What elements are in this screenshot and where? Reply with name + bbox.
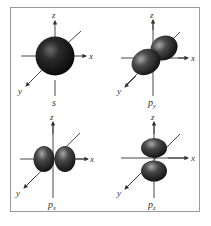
z-axis-label: z xyxy=(49,112,54,122)
panel-pz: z x y pz xyxy=(116,112,195,211)
y-axis-label: y xyxy=(15,188,20,198)
y-axis-label: y xyxy=(116,86,121,96)
z-axis-label: z xyxy=(51,10,56,20)
panel-caption-px: px xyxy=(47,199,56,211)
diagonal-axis-back xyxy=(68,31,81,43)
x-axis-label: x xyxy=(89,154,94,164)
x-axis-label: x xyxy=(88,51,93,61)
px-orbital-lobe-left xyxy=(34,146,55,172)
panel-s: z x y s xyxy=(17,10,93,108)
z-axis-label: z xyxy=(149,10,154,20)
panel-caption-s: s xyxy=(52,97,56,108)
orbital-diagram: z x y s z x y py z x y px xyxy=(0,0,211,226)
x-axis-label: x xyxy=(190,53,195,63)
pz-orbital-lobe-bottom xyxy=(141,161,167,182)
x-axis-label: x xyxy=(190,153,195,163)
y-axis-label: y xyxy=(17,86,22,96)
y-axis-label: y xyxy=(116,188,121,198)
panel-py: z x y py xyxy=(116,10,195,109)
y-axis-arrow xyxy=(24,176,36,188)
y-axis-arrow xyxy=(26,70,42,86)
panel-caption-pz: pz xyxy=(147,199,156,211)
z-axis-label: z xyxy=(150,112,155,122)
pz-orbital-lobe-top xyxy=(141,138,167,158)
y-axis-arrow xyxy=(125,76,136,87)
s-orbital-sphere xyxy=(36,37,75,76)
panel-px: z x y px xyxy=(15,112,94,211)
panel-caption-py: py xyxy=(147,97,156,109)
px-orbital-lobe-right xyxy=(55,146,76,172)
y-axis-arrow xyxy=(125,174,140,189)
